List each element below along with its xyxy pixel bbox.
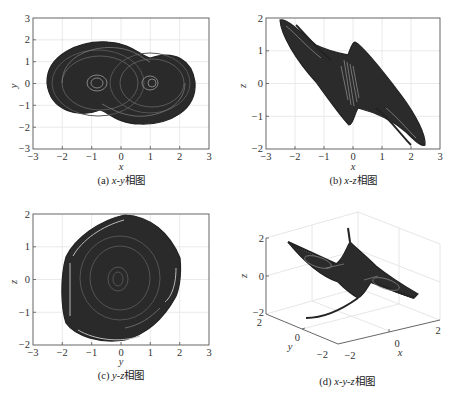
y-tick: 2	[177, 347, 182, 358]
caption-b: (b) x-z相图	[226, 172, 452, 187]
y-tick: 1	[25, 56, 30, 67]
x-tick: 2	[408, 151, 413, 162]
plot-b: −3 −2 −1 0 1 2 3 −2 −1 0 1 2 x z	[226, 0, 452, 198]
z-tick: 0	[25, 274, 30, 285]
y-tick: 1	[148, 347, 153, 358]
y-tick: −2	[19, 122, 30, 133]
x-tick: 2	[435, 325, 440, 336]
z-tick: 2	[258, 13, 263, 24]
panel-d-xyz-phase: 2 0 −2 2 0 −2 −2 0 2 z y x (d) x-y-z相图	[226, 198, 452, 396]
z-tick: 1	[258, 45, 263, 56]
x-tick: 1	[148, 151, 153, 162]
attractor-xy	[47, 42, 195, 124]
panel-b-xz-phase: −3 −2 −1 0 1 2 3 −2 −1 0 1 2 x z (b) x-z…	[226, 0, 452, 198]
caption-c: (c) y-z相图	[0, 367, 242, 382]
y-tick: 3	[206, 347, 211, 358]
z-axis-label: z	[237, 84, 248, 89]
y-tick: −1	[19, 100, 30, 111]
z-tick: −1	[252, 111, 263, 122]
plot-d: 2 0 −2 2 0 −2 −2 0 2 z y x	[226, 198, 452, 396]
attractor-yz	[62, 215, 181, 341]
z-tick: 2	[25, 209, 30, 220]
z-tick: −2	[19, 339, 30, 350]
y-tick: 0	[295, 332, 300, 343]
x-tick: 3	[206, 151, 211, 162]
y-axis-label: y	[287, 341, 293, 352]
z-axis-label: z	[8, 280, 19, 285]
y-tick: −3	[19, 143, 30, 154]
plot-a: −3 −2 −1 0 1 2 3 −3 −2 −1 0 1 2 3 x y	[0, 0, 226, 198]
z-tick: −1	[19, 307, 30, 318]
z-tick: 2	[259, 233, 264, 244]
panel-a-xy-phase: −3 −2 −1 0 1 2 3 −3 −2 −1 0 1 2 3 x y (a…	[0, 0, 226, 198]
x-axis-label: x	[397, 347, 403, 358]
y-tick: 2	[25, 34, 30, 45]
x-tick: −1	[318, 151, 329, 162]
y-tick: −2	[317, 349, 328, 360]
x-tick: 1	[379, 151, 384, 162]
z-tick: 0	[259, 271, 264, 282]
caption-d: (d) x-y-z相图	[226, 373, 452, 388]
x-tick: 3	[437, 151, 442, 162]
x-tick: −2	[344, 350, 355, 361]
y-tick: 2	[257, 317, 262, 328]
y-tick: −2	[57, 347, 68, 358]
z-tick: 0	[258, 78, 263, 89]
x-axis-label: x	[118, 161, 124, 172]
x-axis-label: y	[118, 356, 124, 367]
y-tick: 3	[25, 13, 30, 24]
y-tick: −1	[86, 347, 97, 358]
caption-a: (a) x-y相图	[0, 172, 242, 187]
x-tick: −1	[86, 151, 97, 162]
attractor-xz	[280, 20, 425, 146]
z-axis-label: z	[238, 274, 249, 279]
y-tick: 0	[25, 78, 30, 89]
z-tick: −2	[252, 143, 263, 154]
y-axis-label: y	[8, 83, 19, 89]
x-tick: −2	[57, 151, 68, 162]
x-axis-label: x	[350, 161, 356, 172]
x-tick: 2	[177, 151, 182, 162]
z-tick: 1	[25, 241, 30, 252]
x-tick: −2	[289, 151, 300, 162]
panel-c-yz-phase: −3 −2 −1 0 1 2 3 −2 −1 0 1 2 y z (c) y-z…	[0, 198, 226, 396]
